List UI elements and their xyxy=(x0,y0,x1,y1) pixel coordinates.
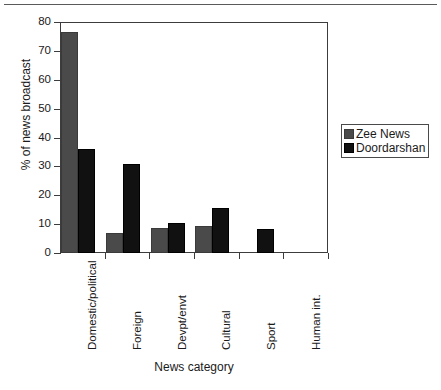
bar xyxy=(168,223,185,253)
x-axis-tick xyxy=(149,253,150,259)
bar xyxy=(123,164,140,254)
x-axis-category-label: Human int. xyxy=(310,294,322,350)
x-axis-category-label: Foreign xyxy=(131,311,143,350)
legend-swatch-icon xyxy=(344,129,354,139)
y-axis-tick-label-wrap: 0 xyxy=(18,247,51,259)
x-axis-category-label: Cultural xyxy=(220,310,232,350)
legend-item-label: Doordarshan xyxy=(356,142,425,155)
bars-layer xyxy=(60,22,328,253)
x-axis-category-label: Domestic/political xyxy=(86,261,98,350)
legend-item[interactable]: Doordarshan xyxy=(344,141,425,155)
y-axis-tick-label: 10 xyxy=(18,218,51,230)
legend-swatch-icon xyxy=(344,143,354,153)
bar xyxy=(212,208,229,253)
bar xyxy=(78,149,95,253)
x-axis-tick xyxy=(239,253,240,259)
bar xyxy=(151,228,168,253)
y-axis-tick-label-wrap: 10 xyxy=(18,218,51,230)
x-axis-tick xyxy=(283,253,284,259)
y-axis-title: % of news broadcast xyxy=(20,25,33,205)
legend-item[interactable]: Zee News xyxy=(344,127,425,141)
x-axis-tick xyxy=(194,253,195,259)
y-axis-tick-label: 0 xyxy=(18,247,51,259)
x-axis-tick xyxy=(328,253,329,259)
bar xyxy=(106,233,123,253)
bar-chart-figure: 01020304050607080 % of news broadcast Ne… xyxy=(0,0,441,390)
legend-item-label: Zee News xyxy=(356,128,410,141)
bar xyxy=(257,229,274,253)
bar xyxy=(61,32,78,253)
bar xyxy=(195,226,212,253)
chart-legend: Zee News Doordarshan xyxy=(341,124,429,158)
x-axis-title: News category xyxy=(60,360,328,374)
x-axis-category-label: Devpt/envt xyxy=(176,295,188,350)
x-axis-category-label: Sport xyxy=(265,323,277,351)
x-axis-tick xyxy=(105,253,106,259)
y-axis-tick xyxy=(54,253,61,254)
